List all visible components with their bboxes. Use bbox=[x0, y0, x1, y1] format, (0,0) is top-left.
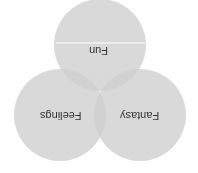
label-fantasy: Fantasy bbox=[120, 110, 159, 122]
venn-svg bbox=[0, 0, 198, 173]
label-fun: Fun bbox=[89, 45, 108, 57]
venn-diagram: Fun Feelings Fantasy bbox=[0, 0, 198, 173]
label-feelings: Feelings bbox=[40, 110, 82, 122]
